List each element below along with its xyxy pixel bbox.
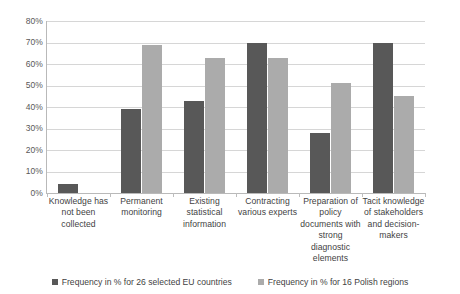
bar-group [362, 21, 425, 193]
y-axis-labels: 80%70%60%50%40%30%20%10%0% [0, 0, 43, 294]
category-tick [425, 193, 426, 197]
bar [247, 43, 267, 194]
legend-item: Frequency in % for 26 selected EU countr… [52, 277, 232, 287]
bar-group [173, 21, 236, 193]
bar [142, 45, 162, 193]
category-axis-labels: Knowledge has not been collectedPermanen… [47, 196, 425, 266]
bar [58, 184, 78, 193]
bar [205, 58, 225, 193]
y-tick-label-0: 0% [5, 189, 43, 198]
bar [373, 43, 393, 194]
bar-group [47, 21, 110, 193]
bar [121, 109, 141, 193]
y-tick-label-30: 30% [5, 124, 43, 133]
legend-label: Frequency in % for 26 selected EU countr… [62, 277, 232, 287]
bar-chart: 80%70%60%50%40%30%20%10%0% Knowledge has… [0, 0, 460, 294]
y-tick-label-20: 20% [5, 146, 43, 155]
bar [310, 133, 330, 193]
bar [184, 101, 204, 193]
y-tick-label-50: 50% [5, 81, 43, 90]
category-label: Tacit knowledge of stakeholders and deci… [362, 196, 425, 242]
y-tick-label-10: 10% [5, 167, 43, 176]
y-tick-label-40: 40% [5, 103, 43, 112]
category-label: Knowledge has not been collected [47, 196, 110, 230]
y-tick-label-80: 80% [5, 17, 43, 26]
category-label: Preparation of policy documents with str… [299, 196, 362, 264]
legend-label: Frequency in % for 16 Polish regions [268, 277, 408, 287]
category-label: Existing statistical information [173, 196, 236, 230]
chart-legend: Frequency in % for 26 selected EU countr… [0, 274, 460, 290]
bar [268, 58, 288, 193]
bar [394, 96, 414, 193]
legend-swatch-icon [258, 279, 264, 285]
bar-group [110, 21, 173, 193]
bar-group [299, 21, 362, 193]
y-tick-label-60: 60% [5, 60, 43, 69]
y-tick-label-70: 70% [5, 38, 43, 47]
legend-item: Frequency in % for 16 Polish regions [258, 277, 408, 287]
legend-swatch-icon [52, 279, 58, 285]
plot-area [47, 21, 425, 193]
bar-group [236, 21, 299, 193]
category-label: Contracting various experts [236, 196, 299, 219]
bar [331, 83, 351, 193]
category-label: Permanent monitoring [110, 196, 173, 219]
